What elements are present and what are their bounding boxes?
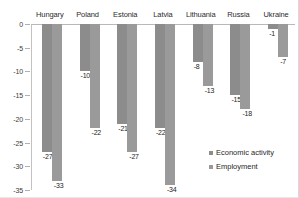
bar-value-label: -8 [194, 63, 200, 70]
legend-swatch-icon [209, 165, 213, 169]
bar: -7 [278, 24, 288, 57]
bar-value-label: -27 [129, 153, 139, 160]
category-label: Latvia [153, 10, 172, 19]
y-tick-mark [25, 24, 30, 25]
legend-swatch-icon [209, 151, 213, 155]
y-tick-label: -30 [13, 163, 23, 170]
bar-group: Poland-10-22 [69, 24, 107, 190]
bar: -21 [117, 24, 127, 124]
bar-value-label: -1 [269, 30, 275, 37]
bar-value-label: -34 [167, 186, 177, 193]
bar: -15 [230, 24, 240, 95]
y-tick-mark [25, 190, 30, 191]
chart-legend: Economic activity Employment [209, 148, 274, 176]
y-tick-mark [25, 95, 30, 96]
bar: -8 [193, 24, 203, 62]
bar-value-label: -22 [92, 129, 102, 136]
y-tick-label: -35 [13, 187, 23, 194]
legend-label: Employment [216, 162, 258, 171]
y-tick-label: -15 [13, 92, 23, 99]
y-tick-label: -25 [13, 139, 23, 146]
bar: -10 [80, 24, 90, 71]
category-label: Estonia [113, 10, 137, 19]
y-tick-label: -5 [17, 44, 23, 51]
bar-group: Latvia-22-34 [144, 24, 182, 190]
bar-chart: 0-5-10-15-20-25-30-35 Hungary-27-33Polan… [0, 0, 299, 198]
bar-value-label: -33 [54, 182, 64, 189]
bar: -27 [127, 24, 137, 152]
y-tick-mark [25, 48, 30, 49]
bar-value-label: -7 [280, 58, 286, 65]
bar: -18 [240, 24, 250, 109]
category-label: Ukraine [264, 10, 289, 19]
category-label: Poland [76, 10, 99, 19]
y-tick-mark [25, 166, 30, 167]
y-tick-mark [25, 143, 30, 144]
category-label: Hungary [36, 10, 64, 19]
bar-group: Estonia-21-27 [106, 24, 144, 190]
bar: -1 [268, 24, 278, 29]
bar-value-label: -13 [205, 87, 215, 94]
bar: -27 [42, 24, 52, 152]
y-tick-mark [25, 71, 30, 72]
legend-item-economic-activity: Economic activity [209, 148, 274, 157]
y-tick-mark [25, 119, 30, 120]
bar-value-label: -18 [242, 110, 252, 117]
bar: -13 [203, 24, 213, 86]
bar: -22 [155, 24, 165, 128]
bar: -34 [165, 24, 175, 185]
bar: -33 [52, 24, 62, 181]
bar: -22 [90, 24, 100, 128]
y-tick-label: 0 [19, 21, 23, 28]
category-label: Russia [227, 10, 249, 19]
legend-item-employment: Employment [209, 162, 274, 171]
bar-group: Hungary-27-33 [31, 24, 69, 190]
y-tick-label: -20 [13, 115, 23, 122]
legend-label: Economic activity [216, 148, 274, 157]
y-tick-label: -10 [13, 68, 23, 75]
category-label: Lithuania [186, 10, 216, 19]
